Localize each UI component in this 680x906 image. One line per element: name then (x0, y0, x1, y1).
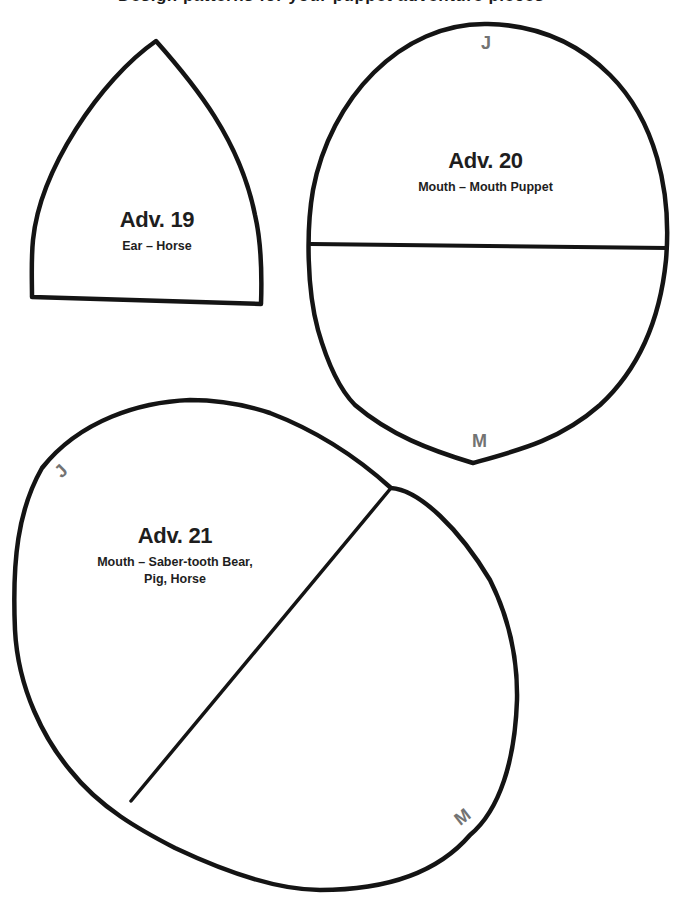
adv20-marker-bottom: M (472, 432, 487, 450)
piece-adv19-shape (32, 41, 262, 304)
piece-subtitle-line2: Pig, Horse (75, 571, 275, 588)
piece-subtitle: Mouth – Mouth Puppet (398, 179, 573, 196)
piece-adv21-shape (14, 400, 517, 890)
piece-subtitle-line1: Mouth – Saber-tooth Bear, (75, 554, 275, 571)
piece-adv20-shape (309, 24, 668, 463)
piece-adv21-label: Adv. 21 Mouth – Saber-tooth Bear, Pig, H… (75, 523, 275, 588)
piece-title: Adv. 21 (75, 523, 275, 549)
piece-subtitle: Ear – Horse (92, 238, 222, 255)
piece-title: Adv. 20 (398, 148, 573, 174)
pattern-sheet (0, 0, 680, 906)
adv20-marker-top: J (481, 34, 491, 52)
piece-title: Adv. 19 (92, 207, 222, 233)
piece-adv20-label: Adv. 20 Mouth – Mouth Puppet (398, 148, 573, 196)
piece-adv19-label: Adv. 19 Ear – Horse (92, 207, 222, 255)
